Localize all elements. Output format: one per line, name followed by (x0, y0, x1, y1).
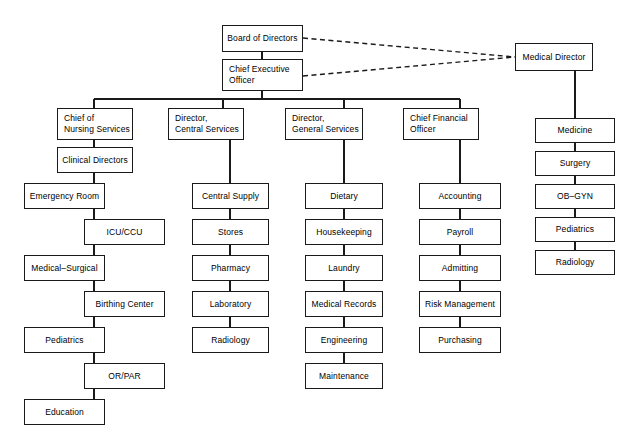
node-pharmacy[interactable]: Pharmacy (192, 255, 269, 281)
node-label: Payroll (447, 227, 474, 238)
node-label: Risk Management (425, 299, 495, 310)
node-central-radiology[interactable]: Radiology (192, 327, 269, 353)
node-label: Radiology (211, 335, 250, 346)
node-central-supply[interactable]: Central Supply (192, 183, 269, 209)
node-medical-surgical[interactable]: Medical–Surgical (24, 255, 105, 281)
node-label: Maintenance (319, 371, 369, 382)
node-label: Clinical Directors (62, 155, 128, 166)
node-label: Medical Records (312, 299, 377, 310)
node-chief-executive-officer[interactable]: Chief Executive Officer (222, 59, 303, 91)
node-label: Laboratory (210, 299, 252, 310)
node-label: Director, Central Services (175, 113, 239, 135)
node-label: Pediatrics (556, 224, 594, 235)
node-label: ICU/CCU (106, 227, 142, 238)
node-admitting[interactable]: Admitting (419, 255, 501, 281)
node-label: Chief Executive Officer (229, 64, 290, 86)
node-ob-gyn[interactable]: OB–GYN (535, 184, 615, 209)
node-label: Stores (218, 227, 243, 238)
node-label: Engineering (321, 335, 367, 346)
node-label: Director, General Services (292, 113, 359, 135)
node-medical-pediatrics[interactable]: Pediatrics (535, 217, 615, 242)
node-medical-records[interactable]: Medical Records (305, 291, 383, 317)
node-label: Medical Director (522, 52, 585, 63)
node-director-central-services[interactable]: Director, Central Services (168, 108, 244, 140)
node-or-par[interactable]: OR/PAR (84, 363, 165, 389)
node-payroll[interactable]: Payroll (419, 219, 501, 245)
node-label: Central Supply (202, 191, 259, 202)
node-label: Education (45, 407, 84, 418)
node-label: Birthing Center (95, 299, 153, 310)
node-accounting[interactable]: Accounting (419, 183, 501, 209)
node-label: Pharmacy (211, 263, 250, 274)
node-education[interactable]: Education (24, 399, 105, 425)
org-chart: Board of Directors Chief Executive Offic… (0, 0, 637, 438)
node-label: Pediatrics (45, 335, 83, 346)
node-label: Surgery (560, 158, 590, 169)
node-label: OR/PAR (108, 371, 141, 382)
node-label: Housekeeping (316, 227, 372, 238)
node-housekeeping[interactable]: Housekeeping (305, 219, 383, 245)
node-label: Dietary (330, 191, 358, 202)
node-board-of-directors[interactable]: Board of Directors (222, 25, 303, 52)
node-label: Medicine (558, 125, 593, 136)
node-chief-of-nursing-services[interactable]: Chief of Nursing Services (57, 108, 133, 140)
node-label: Medical–Surgical (31, 263, 97, 274)
node-label: Chief Financial Officer (410, 113, 468, 135)
node-label: Laundry (328, 263, 359, 274)
node-emergency-room[interactable]: Emergency Room (24, 183, 105, 209)
node-stores[interactable]: Stores (192, 219, 269, 245)
node-label: Purchasing (438, 335, 482, 346)
node-label: Radiology (556, 257, 595, 268)
node-label: OB–GYN (557, 191, 593, 202)
node-label: Board of Directors (227, 33, 297, 44)
node-medicine[interactable]: Medicine (535, 118, 615, 143)
node-medical-radiology[interactable]: Radiology (535, 250, 615, 275)
dashed-link-ceo-medical-director (303, 57, 515, 76)
dashed-link-board-medical-director (303, 38, 515, 57)
node-label: Chief of Nursing Services (64, 113, 130, 135)
node-nursing-pediatrics[interactable]: Pediatrics (24, 327, 105, 353)
node-icu-ccu[interactable]: ICU/CCU (84, 219, 165, 245)
node-director-general-services[interactable]: Director, General Services (285, 108, 363, 140)
node-birthing-center[interactable]: Birthing Center (84, 291, 165, 317)
node-chief-financial-officer[interactable]: Chief Financial Officer (403, 108, 479, 140)
node-engineering[interactable]: Engineering (305, 327, 383, 353)
node-laundry[interactable]: Laundry (305, 255, 383, 281)
node-laboratory[interactable]: Laboratory (192, 291, 269, 317)
node-dietary[interactable]: Dietary (305, 183, 383, 209)
node-medical-director[interactable]: Medical Director (515, 43, 593, 71)
node-purchasing[interactable]: Purchasing (419, 327, 501, 353)
node-surgery[interactable]: Surgery (535, 151, 615, 176)
node-label: Emergency Room (30, 191, 99, 202)
node-label: Admitting (442, 263, 478, 274)
node-risk-management[interactable]: Risk Management (419, 291, 501, 317)
node-label: Accounting (438, 191, 481, 202)
node-clinical-directors[interactable]: Clinical Directors (57, 147, 133, 173)
node-maintenance[interactable]: Maintenance (305, 363, 383, 389)
